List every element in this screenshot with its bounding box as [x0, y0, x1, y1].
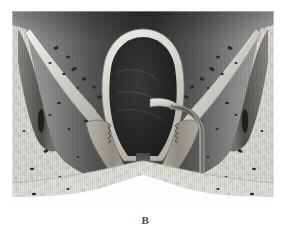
figure-container: B [0, 0, 291, 238]
right-mass-vessel [242, 109, 248, 133]
central-cavity [109, 37, 176, 156]
anatomical-illustration [12, 11, 274, 205]
figure-caption-label: B [0, 214, 291, 227]
illustration-canvas [12, 11, 274, 205]
left-mass-vessel [38, 109, 44, 133]
